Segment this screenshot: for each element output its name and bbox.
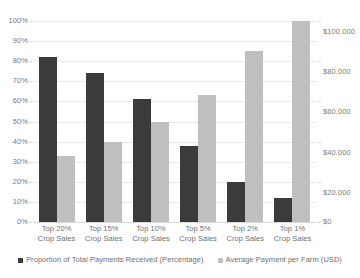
category-label-line1: Top 1% [269, 224, 316, 234]
left-axis-tick: 0% [17, 218, 28, 226]
left-axis-tick: 20% [13, 178, 28, 186]
right-axis-tick: $80,000 [323, 68, 351, 76]
category-labels: Top 20% Crop Sales Top 15% Crop Sales To… [33, 224, 316, 243]
left-axis-tick-mark [29, 122, 32, 123]
left-axis-tick: 50% [13, 118, 28, 126]
bar-proportion[interactable] [39, 57, 57, 222]
category-label-line1: Top 10% [127, 224, 174, 234]
right-axis-tick-mark [318, 222, 321, 223]
legend-item-avg-payment[interactable]: Average Payment per Farm (USD) [218, 256, 342, 264]
bar-avg-payment[interactable] [104, 142, 122, 222]
bar-group [175, 21, 222, 222]
category-label-line2: Crop Sales [222, 234, 269, 244]
bar-avg-payment[interactable] [57, 156, 75, 222]
left-axis-tick: 80% [13, 57, 28, 65]
legend-label: Average Payment per Farm (USD) [226, 256, 342, 264]
bar-avg-payment[interactable] [151, 122, 169, 223]
bar-avg-payment[interactable] [245, 51, 263, 222]
axis-baseline [33, 222, 316, 223]
left-axis-tick-mark [29, 182, 32, 183]
bars-layer [33, 21, 316, 222]
bar-proportion[interactable] [133, 99, 151, 222]
category-label: Top 10% Crop Sales [127, 224, 174, 243]
left-axis-tick-mark [29, 202, 32, 203]
left-axis-tick: 30% [13, 158, 28, 166]
bar-avg-payment[interactable] [292, 21, 310, 222]
right-axis-tick: $0 [323, 218, 332, 226]
left-axis-tick-mark [29, 222, 32, 223]
category-label-line1: Top 5% [175, 224, 222, 234]
category-label-line2: Crop Sales [175, 234, 222, 244]
category-label: Top 5% Crop Sales [175, 224, 222, 243]
legend-label: Proportion of Total Payments Received (P… [26, 256, 203, 264]
right-axis: $100,000 $80,000 $60,000 $40,000 $20,000… [318, 21, 360, 222]
category-label-line2: Crop Sales [269, 234, 316, 244]
left-axis-tick-mark [29, 61, 32, 62]
bar-group [269, 21, 316, 222]
left-axis-tick: 10% [13, 198, 28, 206]
right-axis-tick: $40,000 [323, 149, 351, 157]
right-axis-tick-mark [318, 101, 321, 102]
category-label-line1: Top 2% [222, 224, 269, 234]
bar-chart: 100% 90% 80% 70% 60% 50% 40% 30% 20% 10%… [0, 0, 360, 278]
right-axis-tick: $60,000 [323, 108, 351, 116]
legend: Proportion of Total Payments Received (P… [0, 256, 360, 264]
bar-group [80, 21, 127, 222]
legend-item-proportion[interactable]: Proportion of Total Payments Received (P… [18, 256, 203, 264]
left-axis-tick: 60% [13, 97, 28, 105]
category-label-line1: Top 15% [80, 224, 127, 234]
left-axis-tick-mark [29, 41, 32, 42]
left-axis-tick: 90% [13, 37, 28, 45]
right-axis-tick: $20,000 [323, 189, 351, 197]
bar-group [33, 21, 80, 222]
left-axis-tick-mark [29, 142, 32, 143]
bar-group [222, 21, 269, 222]
bar-proportion[interactable] [227, 182, 245, 222]
left-axis-tick: 40% [13, 138, 28, 146]
legend-swatch-icon [18, 258, 23, 263]
bar-proportion[interactable] [180, 146, 198, 222]
left-axis-tick: 70% [13, 77, 28, 85]
left-axis-tick-mark [29, 162, 32, 163]
category-label: Top 20% Crop Sales [33, 224, 80, 243]
left-axis-tick-mark [29, 81, 32, 82]
bar-avg-payment[interactable] [198, 95, 216, 222]
category-label: Top 2% Crop Sales [222, 224, 269, 243]
category-label-line2: Crop Sales [80, 234, 127, 244]
legend-swatch-icon [218, 258, 223, 263]
category-label-line1: Top 20% [33, 224, 80, 234]
left-axis-tick-mark [29, 21, 32, 22]
right-axis-tick-mark [318, 142, 321, 143]
bar-proportion[interactable] [274, 198, 292, 222]
category-label-line2: Crop Sales [33, 234, 80, 244]
right-axis-tick-mark [318, 182, 321, 183]
category-label: Top 15% Crop Sales [80, 224, 127, 243]
left-axis-tick-mark [29, 101, 32, 102]
plot-area [33, 21, 316, 222]
bar-group [127, 21, 174, 222]
right-axis-tick-mark [318, 21, 321, 22]
right-axis-tick-mark [318, 61, 321, 62]
category-label: Top 1% Crop Sales [269, 224, 316, 243]
left-axis-tick: 100% [8, 17, 28, 25]
bar-proportion[interactable] [86, 73, 104, 222]
category-label-line2: Crop Sales [127, 234, 174, 244]
right-axis-tick: $100,000 [323, 28, 355, 36]
left-axis: 100% 90% 80% 70% 60% 50% 40% 30% 20% 10%… [0, 21, 32, 222]
